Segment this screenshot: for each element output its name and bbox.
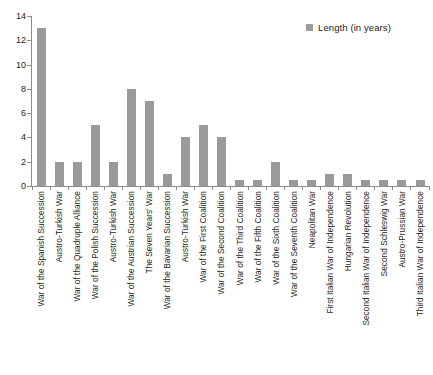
bar[interactable] [217, 137, 226, 186]
x-axis-label: Second Italian War of Independence [362, 191, 370, 326]
bar-slot [50, 16, 68, 186]
x-axis-label: Austro-Prussian War [398, 191, 406, 268]
x-tick-mark [122, 186, 123, 190]
y-tick-label-10: 10 [0, 60, 26, 69]
x-label-slot: Hungarian Revolution [339, 191, 357, 371]
y-tick-label-2: 2 [0, 157, 26, 166]
bar-slot [68, 16, 86, 186]
x-axis-label: First Italian War of Independence [326, 191, 334, 314]
x-tick-mark [320, 186, 321, 190]
bar[interactable] [379, 180, 388, 186]
x-tick-mark [302, 186, 303, 190]
bar-slot [104, 16, 122, 186]
x-axis-label: Austro-Turkish War [109, 191, 117, 262]
bar-slot [212, 16, 230, 186]
y-tick-label-6: 6 [0, 109, 26, 118]
bar[interactable] [253, 180, 262, 186]
x-tick-mark [140, 186, 141, 190]
x-label-slot: Austro-Turkish War [104, 191, 122, 371]
bar[interactable] [199, 125, 208, 186]
bar[interactable] [145, 101, 154, 186]
bar-slot [140, 16, 158, 186]
y-tick-label-8: 8 [0, 84, 26, 93]
bar[interactable] [416, 180, 425, 186]
x-label-slot: War of the Polish Succession [86, 191, 104, 371]
x-label-slot: War of the Sixth Coalition [267, 191, 285, 371]
x-tick-mark [410, 186, 411, 190]
x-axis-label: War of the Fifth Coalition [253, 191, 261, 283]
x-label-slot: Third Italian War of Independence [411, 191, 429, 371]
bar[interactable] [109, 162, 118, 186]
bar[interactable] [37, 28, 46, 186]
x-axis-label: Austro-Turkish War [55, 191, 63, 262]
bar[interactable] [307, 180, 316, 186]
x-label-slot: War of the Bavarian Succession [158, 191, 176, 371]
x-label-slot: War of the Third Coalition [231, 191, 249, 371]
bar-slot [285, 16, 303, 186]
x-label-slot: War of the Fifth Coalition [249, 191, 267, 371]
x-tick-mark [104, 186, 105, 190]
bar-slot [375, 16, 393, 186]
x-axis-label: War of the Seventh Coalition [290, 191, 298, 297]
y-tick-label-0: 0 [0, 182, 26, 191]
bar[interactable] [271, 162, 280, 186]
x-label-slot: The Seven Years' War [140, 191, 158, 371]
bar[interactable] [343, 174, 352, 186]
x-tick-mark [194, 186, 195, 190]
bar[interactable] [127, 89, 136, 186]
bar[interactable] [289, 180, 298, 186]
bar-slot [267, 16, 285, 186]
bar-slot [231, 16, 249, 186]
bar-slot [32, 16, 50, 186]
x-axis-label: War of the Third Coalition [235, 191, 243, 285]
x-tick-mark [429, 186, 430, 190]
bar-slot [303, 16, 321, 186]
bar[interactable] [235, 180, 244, 186]
x-tick-mark [230, 186, 231, 190]
x-tick-mark [248, 186, 249, 190]
bar-slot [339, 16, 357, 186]
x-axis-label: War of the First Coalition [199, 191, 207, 283]
x-axis-label: Hungarian Revolution [344, 191, 352, 271]
x-axis-label: War of the Second Coalition [217, 191, 225, 295]
x-label-slot: War of the Austrian Succession [122, 191, 140, 371]
x-tick-mark [284, 186, 285, 190]
bar-slot [411, 16, 429, 186]
x-tick-mark [32, 186, 33, 190]
x-tick-mark [374, 186, 375, 190]
plot-area: 02468101214 [0, 16, 433, 191]
x-tick-mark [212, 186, 213, 190]
x-axis-label: War of the Spanish Succession [37, 191, 45, 307]
x-tick-mark [176, 186, 177, 190]
x-label-slot: Second Schleswig War [375, 191, 393, 371]
bar-slot [194, 16, 212, 186]
bar[interactable] [55, 162, 64, 186]
bar[interactable] [325, 174, 334, 186]
bars-container [32, 16, 429, 186]
x-label-slot: War of the Second Coalition [212, 191, 230, 371]
bar[interactable] [397, 180, 406, 186]
x-label-slot: Second Italian War of Independence [357, 191, 375, 371]
bar-slot [86, 16, 104, 186]
x-label-slot: Neapolitan War [303, 191, 321, 371]
bar[interactable] [163, 174, 172, 186]
bar[interactable] [91, 125, 100, 186]
x-label-slot: War of the First Coalition [194, 191, 212, 371]
bar[interactable] [361, 180, 370, 186]
x-label-slot: Austro-Turkish War [50, 191, 68, 371]
y-tick-label-4: 4 [0, 133, 26, 142]
x-axis-category-labels: War of the Spanish SuccessionAustro-Turk… [32, 191, 429, 371]
bar-slot [321, 16, 339, 186]
x-axis-label: The Seven Years' War [145, 191, 153, 273]
x-tick-mark [392, 186, 393, 190]
x-axis-label: War of the Quadruple Alliance [73, 191, 81, 302]
x-axis-label: Austro-Turkish War [181, 191, 189, 262]
bar[interactable] [73, 162, 82, 186]
bar-slot [357, 16, 375, 186]
bar[interactable] [181, 137, 190, 186]
y-tick-label-14: 14 [0, 12, 26, 21]
x-tick-mark [338, 186, 339, 190]
x-tick-mark [356, 186, 357, 190]
x-tick-mark [86, 186, 87, 190]
x-label-slot: First Italian War of Independence [321, 191, 339, 371]
